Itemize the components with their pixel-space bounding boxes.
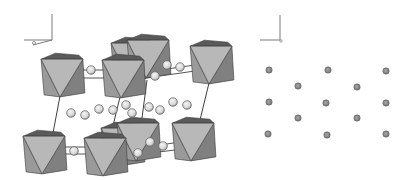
projected-atom-dot: [266, 99, 272, 105]
axis-origin-marker: [33, 42, 36, 45]
projected-atom-dot: [383, 131, 389, 137]
octahedron: [190, 40, 234, 84]
crystal-structure-figure: [0, 0, 410, 180]
axis-left-diagonal: [33, 40, 52, 45]
octahedron: [102, 54, 146, 98]
sphere-atom: [109, 106, 118, 115]
octahedron-top-face: [117, 117, 159, 123]
octahedron: [172, 117, 216, 161]
sphere-atom: [146, 138, 155, 147]
sphere-atom: [95, 105, 104, 114]
projected-atom-dot: [354, 84, 360, 90]
sphere-atom: [183, 101, 192, 110]
projected-atom-dot: [324, 132, 330, 138]
octahedron-top-face: [172, 117, 214, 123]
sphere-atom: [81, 111, 90, 120]
sphere-atom: [134, 149, 143, 158]
octahedron-top-face: [127, 34, 169, 40]
sphere-atom: [156, 106, 165, 115]
projected-atom-dot: [383, 68, 389, 74]
projected-atom-dot: [295, 83, 301, 89]
projected-atom-dot: [383, 100, 389, 106]
sphere-atom: [159, 142, 168, 151]
sphere-atom: [176, 63, 185, 72]
projected-atom-dot: [266, 67, 272, 73]
projected-atom-dot: [325, 67, 331, 73]
projected-atom-dot: [265, 131, 271, 137]
octahedron: [41, 53, 85, 97]
axis-right-origin-marker: [280, 40, 282, 42]
projected-atom-dot: [323, 100, 329, 106]
octahedron-top-face: [190, 40, 232, 46]
atom-projection-panel: [265, 67, 389, 138]
sphere-atom: [67, 109, 76, 118]
unit-cell-edge: [200, 83, 209, 120]
sphere-atom: [169, 98, 178, 107]
sphere-atom: [145, 103, 154, 112]
unit-cell-edge: [53, 96, 60, 133]
sphere-atom: [122, 101, 131, 110]
octahedron-top-face: [23, 130, 65, 136]
sphere-atom: [87, 66, 96, 75]
octahedron-top-face: [41, 53, 83, 59]
sphere-atom: [163, 61, 172, 70]
projected-atom-dot: [354, 115, 360, 121]
sphere-atom: [151, 72, 160, 81]
projected-atom-dot: [295, 115, 301, 121]
sphere-atom: [128, 109, 137, 118]
octahedron: [23, 130, 67, 174]
octahedron: [84, 132, 128, 176]
sphere-atom: [70, 147, 79, 156]
